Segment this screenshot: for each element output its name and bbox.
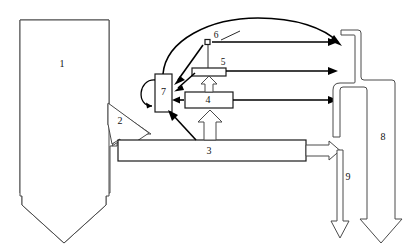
downward-hollow-arrow-9 — [331, 150, 349, 238]
recycle-loop-arrowhead — [146, 103, 152, 109]
label-3: 3 — [207, 145, 212, 156]
node-6-leader — [221, 31, 240, 40]
label-5: 5 — [221, 57, 226, 67]
label-9: 9 — [346, 171, 351, 182]
hollow-arrow-duct3-to-box4 — [198, 110, 222, 140]
recycle-loop-arc-7 — [141, 80, 155, 106]
diagram-canvas: 1 2 3 4 5 6 7 — [0, 0, 407, 251]
process-flow-diagram: 1 2 3 4 5 6 7 — [0, 0, 407, 251]
arrow-duct3-to-box7 — [172, 114, 196, 140]
node-6-marker — [205, 40, 210, 45]
label-8: 8 — [381, 131, 386, 142]
label-6: 6 — [214, 30, 219, 40]
arrowhead-box5-to-duct8 — [328, 67, 338, 75]
unit-box-5 — [192, 68, 226, 76]
label-1: 1 — [60, 58, 65, 69]
hollow-arrow-box4-to-box5 — [201, 76, 217, 92]
label-2: 2 — [118, 115, 123, 126]
label-4: 4 — [206, 94, 211, 105]
duct-outlet-hollow-arrow — [306, 141, 340, 160]
arrowhead-box4-to-box7 — [172, 97, 180, 104]
label-7: 7 — [161, 86, 166, 97]
horizontal-duct-3 — [118, 140, 306, 161]
shape-1-body-outline — [20, 20, 109, 243]
arrowhead-box5-to-box7 — [174, 85, 184, 92]
